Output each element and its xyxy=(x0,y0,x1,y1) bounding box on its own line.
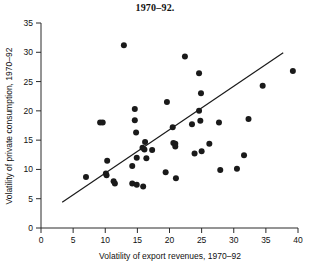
x-tick-label: 40 xyxy=(293,235,303,245)
x-tick-label: 30 xyxy=(229,235,239,245)
data-point xyxy=(182,53,188,59)
data-point xyxy=(217,167,223,173)
data-point xyxy=(133,130,139,136)
data-point xyxy=(142,139,148,145)
data-point xyxy=(104,172,110,178)
data-point xyxy=(290,68,296,74)
data-point xyxy=(260,83,266,89)
data-point xyxy=(129,163,135,169)
x-tick-label: 20 xyxy=(165,235,175,245)
data-point xyxy=(234,166,240,172)
data-point xyxy=(197,118,203,124)
data-point xyxy=(172,144,178,150)
data-point xyxy=(170,124,176,130)
y-tick-label: 25 xyxy=(24,77,34,87)
data-point xyxy=(173,175,179,181)
y-tick-label: 30 xyxy=(24,47,34,57)
y-axis-title: Volatility of private consumption, 1970–… xyxy=(4,47,14,204)
x-axis-title: Volatility of export revenues, 1970–92 xyxy=(99,251,241,261)
data-point xyxy=(121,42,127,48)
data-point xyxy=(112,180,118,186)
data-point xyxy=(196,70,202,76)
data-point xyxy=(163,169,169,175)
data-point xyxy=(134,155,140,161)
axes-group xyxy=(41,23,298,228)
y-tick-label: 10 xyxy=(24,164,34,174)
data-point xyxy=(132,117,138,123)
data-point xyxy=(83,174,89,180)
y-tick-label: 20 xyxy=(24,106,34,116)
data-point xyxy=(132,106,138,112)
data-point xyxy=(149,147,155,153)
data-point xyxy=(140,183,146,189)
data-point xyxy=(143,155,149,161)
x-tick-label: 15 xyxy=(133,235,143,245)
data-point xyxy=(198,90,204,96)
data-point xyxy=(199,148,205,154)
scatter-plot: 05101520253035 0510152025303540 Volatili… xyxy=(0,0,310,266)
data-point xyxy=(104,158,110,164)
y-tick-label: 0 xyxy=(28,223,33,233)
data-point xyxy=(164,99,170,105)
y-tick-label: 15 xyxy=(24,135,34,145)
x-axis-ticks: 0510152025303540 xyxy=(39,228,303,245)
data-point xyxy=(206,141,212,147)
x-tick-label: 35 xyxy=(261,235,271,245)
data-point xyxy=(189,121,195,127)
data-point xyxy=(134,182,140,188)
data-point xyxy=(241,152,247,158)
data-point xyxy=(192,151,198,157)
figure-container: 1970–92. 05101520253035 0510152025303540… xyxy=(0,0,310,266)
y-axis-ticks: 05101520253035 xyxy=(24,18,41,233)
y-tick-label: 35 xyxy=(24,18,34,28)
y-tick-label: 5 xyxy=(28,194,33,204)
x-tick-label: 25 xyxy=(197,235,207,245)
data-point xyxy=(216,120,222,126)
x-tick-label: 0 xyxy=(39,235,44,245)
data-point xyxy=(196,108,202,114)
data-point xyxy=(246,116,252,122)
x-tick-label: 5 xyxy=(71,235,76,245)
data-point xyxy=(100,120,106,126)
x-tick-label: 10 xyxy=(101,235,111,245)
data-point xyxy=(141,147,147,153)
